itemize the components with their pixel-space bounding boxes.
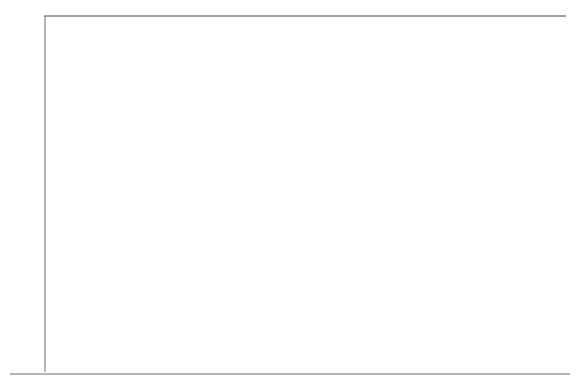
ecg-tracing [0, 0, 579, 384]
